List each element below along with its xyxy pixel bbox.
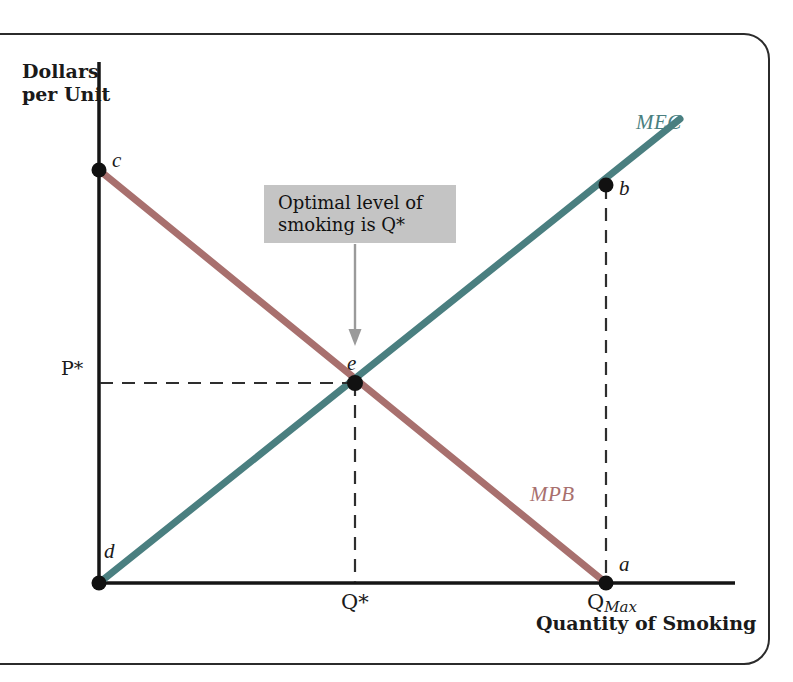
x-axis-title: Quantity of Smoking — [536, 612, 756, 634]
plot-area: Dollars per Unit Quantity of Smoking MEC… — [0, 0, 793, 682]
point-marker-c — [92, 163, 107, 178]
point-marker-e — [347, 375, 363, 391]
point-label-a: a — [619, 552, 630, 577]
callout-arrow-head — [349, 329, 362, 346]
mec-curve-label: MEC — [636, 110, 682, 135]
mpb-curve-label: MPB — [530, 482, 575, 507]
point-label-c: c — [112, 148, 121, 173]
y-tick-label-p-star: P* — [61, 357, 83, 379]
point-label-b: b — [619, 176, 630, 201]
point-marker-b — [599, 178, 614, 193]
point-marker-a — [599, 576, 614, 591]
q-max-base: Q — [587, 590, 604, 614]
callout-text: Optimal level of smoking is Q* — [278, 192, 448, 236]
chart-svg — [0, 0, 793, 682]
y-axis-title: Dollars per Unit — [22, 60, 110, 106]
point-marker-d — [92, 576, 107, 591]
point-label-e: e — [347, 351, 356, 376]
q-max-subscript: Max — [604, 598, 637, 616]
point-label-d: d — [104, 539, 115, 564]
x-tick-label-q-star: Q* — [341, 590, 369, 614]
callout-box: Optimal level of smoking is Q* — [264, 185, 456, 243]
x-tick-label-q-max: QMax — [587, 590, 637, 616]
